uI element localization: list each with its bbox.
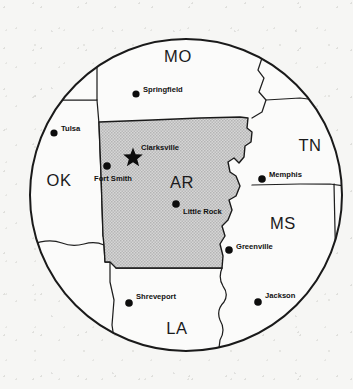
city-dot-memphis[interactable]	[258, 175, 266, 183]
city-label-tulsa: Tulsa	[61, 124, 81, 133]
state-label-tn: TN	[298, 136, 321, 154]
state-label-mo: MO	[164, 47, 192, 65]
city-dot-tulsa[interactable]	[50, 129, 57, 136]
city-dot-little-rock[interactable]	[172, 200, 180, 208]
city-dot-springfield[interactable]	[132, 90, 139, 97]
city-dot-fort-smith[interactable]	[103, 162, 111, 170]
map-canvas: Springfield Tulsa Clarksville Fort Smith…	[0, 0, 353, 389]
city-dot-greenville[interactable]	[225, 246, 233, 254]
city-label-jackson: Jackson	[265, 291, 296, 300]
city-label-clarksville: Clarksville	[141, 143, 179, 152]
state-label-ar: AR	[170, 173, 194, 191]
state-label-la: LA	[166, 319, 187, 337]
city-label-memphis: Memphis	[269, 170, 302, 179]
locator-map: Springfield Tulsa Clarksville Fort Smith…	[0, 0, 353, 389]
city-label-greenville: Greenville	[236, 242, 273, 251]
state-label-ms: MS	[270, 214, 296, 232]
map-interior: Springfield Tulsa Clarksville Fort Smith…	[0, 0, 353, 389]
state-label-ok: OK	[46, 171, 71, 189]
city-label-little-rock: Little Rock	[183, 207, 223, 216]
city-label-fort-smith: Fort Smith	[94, 174, 132, 183]
city-label-shreveport: Shreveport	[136, 292, 177, 301]
city-dot-shreveport[interactable]	[125, 299, 133, 307]
city-label-springfield: Springfield	[143, 85, 183, 94]
city-dot-jackson[interactable]	[254, 298, 262, 306]
